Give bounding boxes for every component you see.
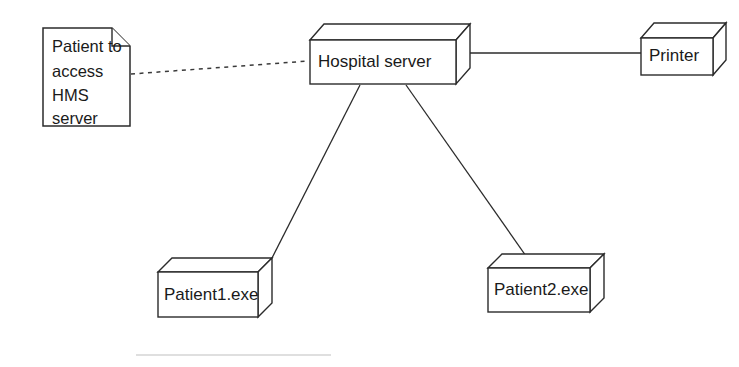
printer-label: Printer <box>649 46 699 65</box>
node-patient2[interactable]: Patient2.exe <box>488 254 604 312</box>
note-line-1: Patient to <box>52 37 122 55</box>
connector-note-to-hospital-server <box>131 61 309 74</box>
node-hospital-server[interactable]: Hospital server <box>310 24 470 84</box>
node-printer[interactable]: Printer <box>641 23 726 75</box>
hospital-server-label: Hospital server <box>318 52 432 71</box>
node-patient1[interactable]: Patient1.exe <box>158 258 272 317</box>
patient1-label: Patient1.exe <box>164 285 259 304</box>
patient2-top-face <box>488 254 604 268</box>
note-line-4: server <box>52 109 98 127</box>
note-line-3: HMS <box>52 86 89 104</box>
hospital-server-top-face <box>310 24 470 40</box>
patient1-top-face <box>158 258 272 272</box>
connector-hospital-server-to-patient1 <box>272 85 360 258</box>
note-line-2: access <box>52 62 103 80</box>
patient-access-note[interactable]: Patient to access HMS server <box>43 28 130 127</box>
deployment-diagram-canvas: Patient to access HMS server Hospital se… <box>0 0 739 367</box>
printer-top-face <box>641 23 726 38</box>
patient2-label: Patient2.exe <box>494 280 589 299</box>
connector-hospital-server-to-patient2 <box>406 85 526 256</box>
